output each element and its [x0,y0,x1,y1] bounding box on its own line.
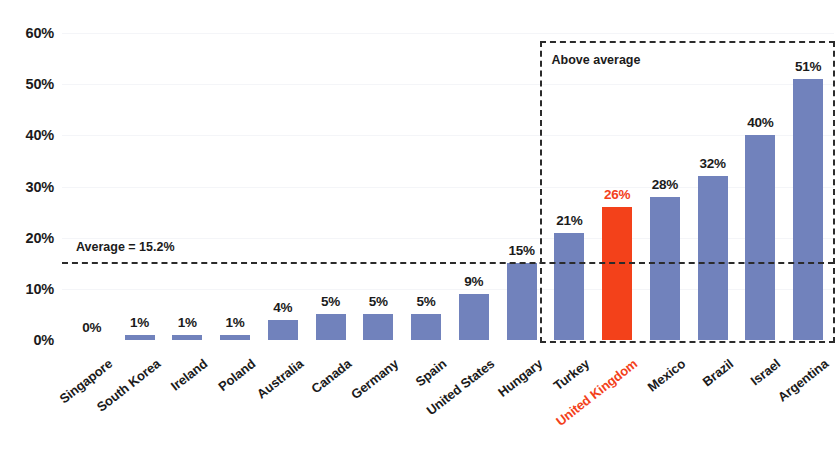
bar-value-label: 40% [730,115,790,130]
bar[interactable] [268,320,298,340]
bar-value-label: 1% [205,315,265,330]
bar-value-label: 28% [635,177,695,192]
bar[interactable] [745,135,775,340]
bar-value-label: 21% [539,213,599,228]
average-line-label: Average = 15.2% [76,240,175,254]
bar[interactable] [507,263,537,340]
bar[interactable] [554,233,584,340]
above-average-label: Above average [552,53,641,67]
y-axis-tick-label: 20% [26,230,54,246]
y-axis-tick-label: 60% [26,25,54,41]
bar-value-label: 15% [492,243,552,258]
y-axis-tick-label: 0% [33,332,54,348]
y-axis: 0%10%20%30%40%50%60% [0,0,62,471]
bar-value-label: 5% [396,294,456,309]
bar[interactable] [411,314,441,340]
bar-value-label: 9% [444,274,504,289]
y-axis-tick-label: 40% [26,127,54,143]
bar[interactable] [602,207,632,340]
y-axis-tick-label: 30% [26,179,54,195]
bar[interactable] [172,335,202,340]
y-axis-tick-label: 50% [26,76,54,92]
bar[interactable] [125,335,155,340]
bar[interactable] [363,314,393,340]
bar[interactable] [650,197,680,340]
bar[interactable] [698,176,728,340]
average-line [62,262,834,264]
bar[interactable] [220,335,250,340]
bar-chart: 0%10%20%30%40%50%60% Above average 0%1%1… [0,0,838,471]
bar-value-label: 32% [683,156,743,171]
bar-value-label: 51% [778,59,838,74]
bar[interactable] [793,79,823,340]
bar[interactable] [316,314,346,340]
y-axis-tick-label: 10% [26,281,54,297]
bar[interactable] [459,294,489,340]
